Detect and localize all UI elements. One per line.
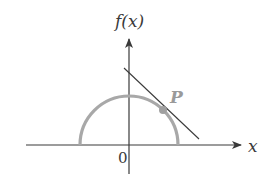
y-axis-label: f(x) bbox=[113, 11, 144, 31]
origin-label: 0 bbox=[118, 149, 128, 167]
point-p-marker bbox=[159, 106, 167, 114]
tangent-line bbox=[124, 68, 199, 139]
semicircle-tangent-diagram: f(x) x 0 P bbox=[0, 0, 279, 182]
point-p-label: P bbox=[169, 87, 184, 107]
x-axis-label: x bbox=[248, 136, 258, 156]
